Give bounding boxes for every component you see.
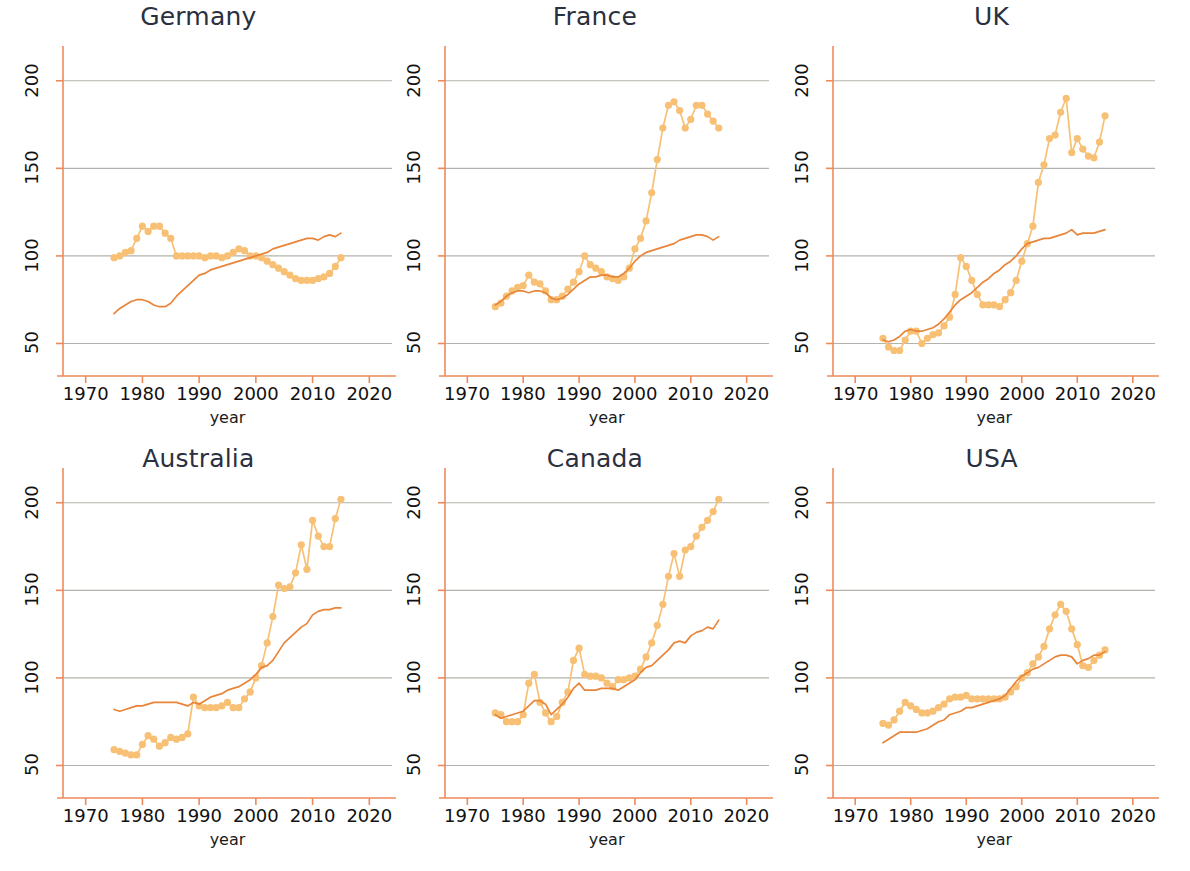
- y-tick-label: 50: [21, 323, 42, 363]
- x-tick-label: 2010: [1048, 383, 1108, 404]
- x-tick-label: 1990: [169, 383, 229, 404]
- y-tick-label: 150: [402, 570, 423, 610]
- x-tick-label: 2000: [226, 805, 286, 826]
- x-tick-label: 2000: [226, 383, 286, 404]
- y-tick-label: 100: [402, 235, 423, 275]
- x-tick-label: 2020: [339, 383, 399, 404]
- x-tick-label: 2000: [605, 383, 665, 404]
- x-tick-label: 1990: [549, 805, 609, 826]
- y-tick-label: 100: [791, 235, 812, 275]
- chart-panel-germany: Germany197019801990200020102020501001502…: [0, 0, 397, 430]
- y-tick-label: 50: [402, 323, 423, 363]
- x-tick-label: 1980: [493, 383, 553, 404]
- y-tick-label: 150: [791, 148, 812, 188]
- x-tick-label: 1970: [826, 383, 886, 404]
- x-tick-label: 1980: [881, 383, 941, 404]
- x-tick-label: 2020: [716, 383, 776, 404]
- x-tick-label: 1970: [437, 805, 497, 826]
- x-tick-label: 2020: [339, 805, 399, 826]
- y-tick-label: 200: [21, 482, 42, 522]
- chart-panel-usa: USA19701980199020002010202050100150200ye…: [793, 430, 1190, 871]
- x-axis-label: year: [63, 830, 392, 849]
- x-tick-label: 1970: [56, 805, 116, 826]
- y-tick-label: 50: [791, 745, 812, 785]
- y-tick-label: 100: [21, 657, 42, 697]
- y-tick-label: 150: [21, 148, 42, 188]
- x-axis-label: year: [445, 408, 769, 427]
- x-axis-label: year: [63, 408, 392, 427]
- x-tick-label: 2010: [660, 805, 720, 826]
- x-tick-label: 2020: [1103, 383, 1163, 404]
- chart-panel-australia: Australia1970198019902000201020205010015…: [0, 430, 397, 871]
- x-tick-label: 2010: [283, 383, 343, 404]
- x-axis-label: year: [833, 830, 1155, 849]
- x-tick-label: 1990: [937, 383, 997, 404]
- x-tick-label: 2010: [283, 805, 343, 826]
- x-tick-label: 2000: [605, 805, 665, 826]
- chart-panel-canada: Canada1970198019902000201020205010015020…: [397, 430, 794, 871]
- x-tick-label: 1990: [169, 805, 229, 826]
- y-tick-label: 200: [791, 60, 812, 100]
- x-axis-label: year: [445, 830, 769, 849]
- plot-area: [793, 0, 1190, 430]
- y-tick-label: 50: [21, 745, 42, 785]
- plot-area: [0, 0, 397, 430]
- x-tick-label: 1980: [881, 805, 941, 826]
- x-tick-label: 2020: [716, 805, 776, 826]
- y-tick-label: 150: [21, 570, 42, 610]
- x-tick-label: 1980: [112, 805, 172, 826]
- x-tick-label: 1980: [493, 805, 553, 826]
- y-tick-label: 100: [21, 235, 42, 275]
- x-tick-label: 1990: [549, 383, 609, 404]
- y-tick-label: 50: [402, 745, 423, 785]
- x-tick-label: 1970: [56, 383, 116, 404]
- y-tick-label: 100: [791, 657, 812, 697]
- y-tick-label: 200: [791, 482, 812, 522]
- chart-panel-uk: UK19701980199020002010202050100150200yea…: [793, 0, 1190, 430]
- x-tick-label: 1980: [112, 383, 172, 404]
- x-tick-label: 1970: [437, 383, 497, 404]
- y-tick-label: 150: [791, 570, 812, 610]
- plot-area: [397, 0, 787, 430]
- y-tick-label: 50: [791, 323, 812, 363]
- y-tick-label: 200: [402, 482, 423, 522]
- x-tick-label: 2010: [1048, 805, 1108, 826]
- small-multiples-figure: Germany197019801990200020102020501001502…: [0, 0, 1190, 871]
- x-tick-label: 1970: [826, 805, 886, 826]
- y-tick-label: 200: [21, 60, 42, 100]
- x-tick-label: 2020: [1103, 805, 1163, 826]
- y-tick-label: 200: [402, 60, 423, 100]
- chart-panel-france: France1970198019902000201020205010015020…: [397, 0, 794, 430]
- y-tick-label: 150: [402, 148, 423, 188]
- x-tick-label: 1990: [937, 805, 997, 826]
- y-tick-label: 100: [402, 657, 423, 697]
- x-axis-label: year: [833, 408, 1155, 427]
- x-tick-label: 2010: [660, 383, 720, 404]
- x-tick-label: 2000: [992, 805, 1052, 826]
- x-tick-label: 2000: [992, 383, 1052, 404]
